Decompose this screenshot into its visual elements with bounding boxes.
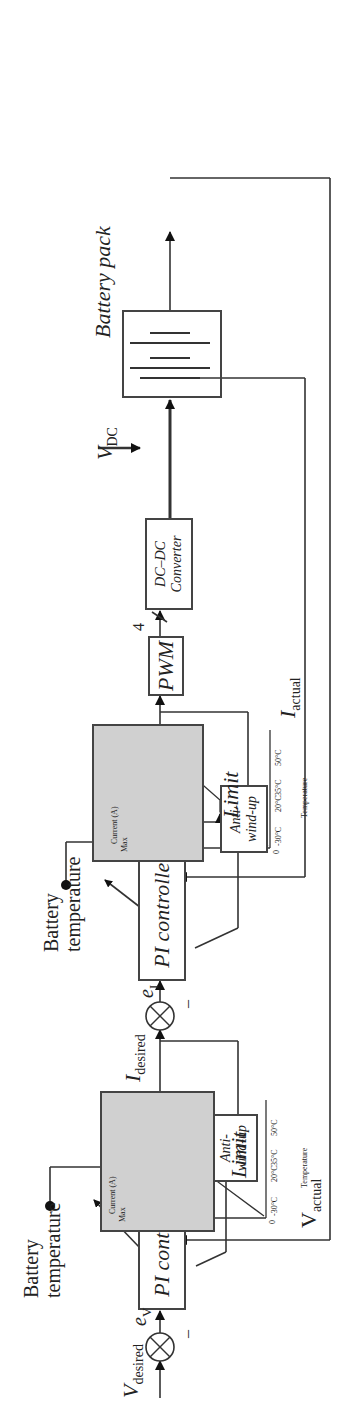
limit-chart-xtick-3: 50°C bbox=[274, 749, 283, 766]
battery-temperature-label-2: Battery temperature bbox=[40, 857, 84, 953]
limit-chart-max: Max bbox=[118, 1207, 127, 1222]
minus-sign-1: – bbox=[178, 1330, 196, 1338]
limit-chart-origin: 0 bbox=[268, 1220, 277, 1224]
limit-chart-xtick-0: -30°C bbox=[274, 827, 283, 846]
battery-pack-block bbox=[122, 310, 222, 398]
dcdc-converter-block: DC–DC Converter bbox=[145, 518, 193, 610]
battery-temperature-label-1: Battery temperature bbox=[20, 1203, 64, 1299]
dcdc-line1: DC–DC bbox=[153, 541, 169, 587]
limit-chart-xtick-1: 20°C bbox=[274, 795, 283, 812]
limit-chart-ylabel: Current (A) bbox=[110, 806, 119, 844]
anti-windup-line2: wind-up bbox=[244, 796, 260, 842]
pi-controller-label: PI controller bbox=[149, 854, 175, 967]
limit-chart-xlabel: Temperature bbox=[300, 1148, 309, 1188]
dcdc-line2: Converter bbox=[169, 536, 185, 593]
limit-chart-origin: 0 bbox=[272, 850, 281, 854]
limit-chart-max: Max bbox=[120, 837, 129, 852]
pi-controller-block-2: PI controller bbox=[138, 841, 186, 981]
pwm-bus-width: 4 bbox=[130, 623, 148, 631]
v-dc-label: VDC bbox=[92, 427, 121, 460]
i-desired-label: Idesired bbox=[120, 1034, 149, 1082]
limit-chart-xtick-0: -30°C bbox=[270, 1197, 279, 1216]
pwm-block: PWM bbox=[148, 636, 184, 696]
limit-chart-xtick-3: 50°C bbox=[270, 1119, 279, 1136]
limit-chart-xtick-2: 35°C bbox=[274, 779, 283, 796]
diagram-stage: PI controller Anti- wind-up PI controlle… bbox=[0, 0, 339, 1418]
pwm-label: PWM bbox=[153, 641, 179, 691]
limit-block-2 bbox=[92, 724, 204, 862]
v-desired-label: Vdesired bbox=[118, 1344, 147, 1398]
e-v-label: eV bbox=[128, 1308, 155, 1326]
limit-chart-xtick-1: 20°C bbox=[270, 1165, 279, 1182]
limit-chart-xtick-2: 35°C bbox=[270, 1149, 279, 1166]
limit-label-2: Limit bbox=[218, 772, 244, 818]
limit-chart-ylabel: Current (A) bbox=[108, 1176, 117, 1214]
minus-sign-2: – bbox=[178, 1000, 196, 1008]
battery-pack-label: Battery pack bbox=[90, 226, 116, 338]
e-i-label: eI bbox=[135, 985, 162, 998]
limit-label-1: Limit bbox=[226, 1132, 252, 1178]
limit-chart-xlabel: Temperature bbox=[300, 778, 309, 818]
i-actual-label: Iactual bbox=[275, 677, 304, 718]
block-diagram: PI controller Anti- wind-up PI controlle… bbox=[0, 0, 339, 1418]
